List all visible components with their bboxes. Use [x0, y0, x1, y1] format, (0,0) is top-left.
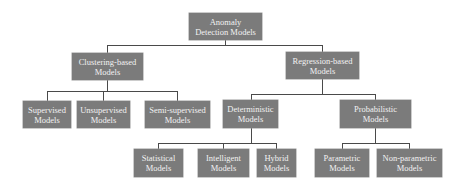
- node-label: Models: [397, 163, 423, 173]
- connector: [107, 45, 108, 53]
- node-label: Models: [211, 163, 237, 173]
- connector: [177, 91, 178, 101]
- node-label: Parametric: [324, 153, 361, 163]
- connector: [158, 143, 277, 144]
- connector: [342, 143, 410, 144]
- node-supervised-models: Supervised Models: [23, 101, 71, 128]
- node-label: Regression-based: [293, 56, 353, 66]
- node-label: Clustering-based: [79, 57, 137, 67]
- connector: [47, 91, 48, 101]
- node-regression-based-models: Regression-based Models: [286, 52, 359, 79]
- node-label: Unsupervised: [80, 105, 127, 115]
- node-label: Models: [165, 115, 191, 125]
- connector: [322, 45, 323, 52]
- connector: [251, 128, 252, 143]
- node-label: Statistical: [142, 153, 176, 163]
- node-label: Models: [238, 114, 264, 124]
- connector: [322, 79, 323, 94]
- node-statistical-models: Statistical Models: [134, 149, 183, 177]
- node-label: Models: [329, 163, 355, 173]
- connector: [103, 91, 104, 101]
- node-anomaly-detection-models: Anomaly Detection Models: [189, 13, 262, 40]
- node-label: Models: [91, 115, 117, 125]
- connector: [47, 91, 178, 92]
- node-label: Models: [264, 163, 290, 173]
- node-label: Semi-supervised: [149, 105, 206, 115]
- node-label: Supervised: [28, 105, 66, 115]
- node-semi-supervised-models: Semi-supervised Models: [145, 101, 210, 128]
- connector: [375, 128, 376, 143]
- connector: [251, 94, 376, 95]
- node-non-parametric-models: Non-parametric Models: [377, 149, 442, 177]
- connector: [107, 80, 108, 91]
- node-label: Models: [363, 114, 389, 124]
- node-label: Models: [310, 66, 336, 76]
- node-label: Non-parametric: [383, 153, 437, 163]
- node-label: Probabilistic: [354, 104, 397, 114]
- node-label: Models: [146, 163, 172, 173]
- node-label: Deterministic: [227, 104, 273, 114]
- node-label: Models: [95, 67, 121, 77]
- node-label: Intelligent: [206, 153, 241, 163]
- connector: [107, 45, 323, 46]
- node-hybrid-models: Hybrid Models: [257, 149, 296, 177]
- node-label: Models: [34, 115, 60, 125]
- node-label: Anomaly: [210, 17, 242, 27]
- node-clustering-based-models: Clustering-based Models: [72, 53, 143, 80]
- node-intelligent-models: Intelligent Models: [198, 149, 249, 177]
- node-parametric-models: Parametric Models: [315, 149, 369, 177]
- node-probabilistic-models: Probabilistic Models: [340, 100, 411, 128]
- node-label: Detection Models: [195, 27, 256, 37]
- node-unsupervised-models: Unsupervised Models: [77, 101, 130, 128]
- node-label: Hybrid: [264, 153, 288, 163]
- node-deterministic-models: Deterministic Models: [223, 100, 278, 128]
